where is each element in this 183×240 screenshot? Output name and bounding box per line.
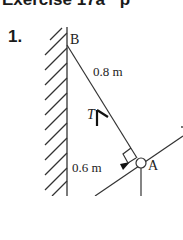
tension-arrow bbox=[97, 110, 108, 126]
label-a: A bbox=[148, 158, 158, 174]
right-angle-marker bbox=[123, 148, 136, 163]
wall bbox=[45, 27, 67, 196]
label-tension: T bbox=[87, 107, 95, 123]
label-b: B bbox=[70, 32, 79, 48]
string-ba bbox=[67, 45, 137, 158]
point-a-circle bbox=[136, 158, 146, 168]
label-length-ax: 0.6 m bbox=[72, 160, 102, 176]
label-length-ba: 0.8 m bbox=[93, 64, 123, 80]
